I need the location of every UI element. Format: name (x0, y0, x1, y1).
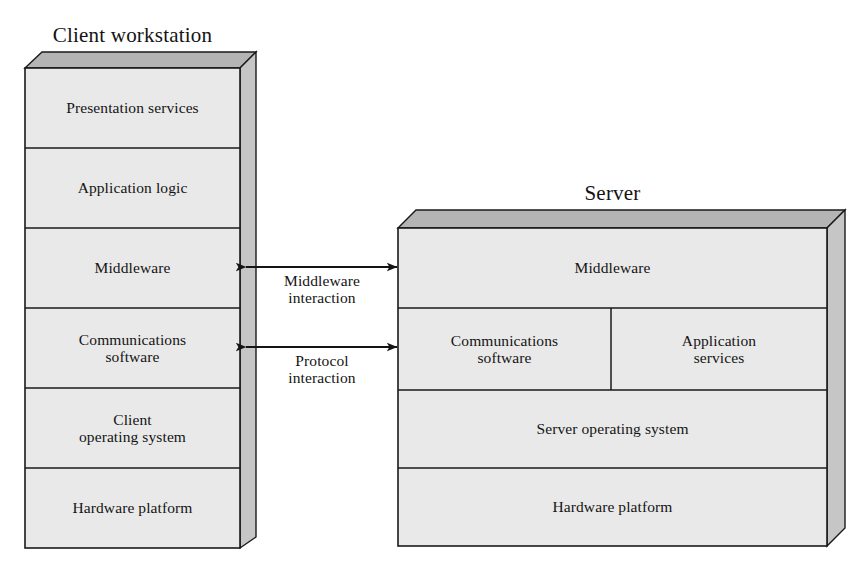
server-box-side-face (827, 210, 845, 546)
diagram-canvas (0, 0, 865, 582)
client-workstation-box (25, 52, 256, 548)
client-server-diagram: Client workstation Presentation services… (0, 0, 865, 582)
server-box-top-face (398, 210, 845, 228)
client-box-top-face (25, 52, 256, 68)
client-box-side-face (240, 52, 256, 548)
server-box-front-face (398, 228, 827, 546)
connector-arrows (246, 267, 397, 347)
server-box (398, 210, 845, 546)
